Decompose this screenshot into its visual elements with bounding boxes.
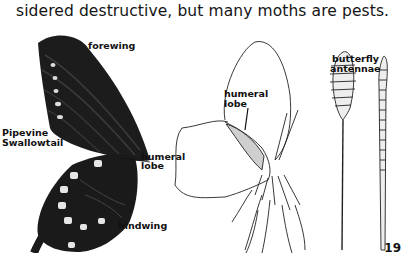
species-label-line2: Swallowtail [2,138,63,148]
antennae-illustration [330,52,387,250]
hindwing-illustration [34,154,150,253]
butterfly-side-view-illustration [175,42,305,253]
humeral-lobe-label-left-2: lobe [141,161,164,171]
hindwing-label: hindwing [118,221,167,231]
antennae-title-line2: antennae [330,64,381,74]
humeral-lobe-label-center-2: lobe [224,99,247,109]
forewing-label: forewing [88,41,135,51]
page-number: 19 [384,241,401,253]
